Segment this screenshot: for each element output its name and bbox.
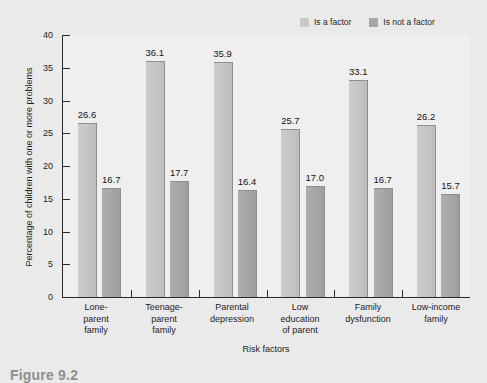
x-tick-mark <box>267 290 268 297</box>
x-tick-mark <box>199 290 200 297</box>
bar-top-edge <box>102 188 120 189</box>
bar-value-label: 36.1 <box>146 48 165 58</box>
x-category-label-line: depression <box>198 314 266 326</box>
bar-value-label: 17.7 <box>170 168 189 178</box>
y-tick-label: 30 <box>43 96 53 105</box>
bar-group: 35.916.4 <box>199 35 267 297</box>
bar-value-label: 35.9 <box>213 49 232 59</box>
y-tick-label: 15 <box>43 194 53 203</box>
bar[interactable]: 16.7 <box>374 188 393 297</box>
y-axis-title: Percentage of children with one or more … <box>22 35 36 298</box>
x-category-label-line: dysfunction <box>334 314 402 326</box>
legend-item-is-not-a-factor: Is not a factor <box>369 18 435 27</box>
x-category-label-line: parent <box>130 314 198 326</box>
x-category-label: Teenage-parentfamily <box>130 302 198 337</box>
bar-group: 33.116.7 <box>334 35 402 297</box>
bar[interactable]: 16.7 <box>102 188 121 297</box>
y-tick-label: 25 <box>43 129 53 138</box>
bar-groups: 26.616.736.117.735.916.425.717.033.116.7… <box>63 35 470 297</box>
x-category-label: Loweducationof parent <box>266 302 334 337</box>
legend-label: Is a factor <box>314 18 351 27</box>
bar-value-label: 26.6 <box>78 110 97 120</box>
bar-value-label: 15.7 <box>441 181 460 191</box>
x-category-label-line: family <box>402 314 470 326</box>
x-category-label-line: of parent <box>266 325 334 337</box>
bar[interactable]: 25.7 <box>281 129 300 297</box>
x-axis-category-labels: Lone-parentfamilyTeenage-parentfamilyPar… <box>62 302 470 337</box>
legend-swatch-icon <box>369 18 378 27</box>
bar-top-edge <box>238 190 256 191</box>
x-category-label: Lone-parentfamily <box>62 302 130 337</box>
bar-top-edge <box>214 62 232 63</box>
bar-group: 26.616.7 <box>63 35 131 297</box>
figure-caption: Figure 9.2 <box>10 367 78 383</box>
bar-group: 26.215.7 <box>402 35 470 297</box>
bar[interactable]: 17.7 <box>170 181 189 297</box>
x-category-label-line: family <box>62 325 130 337</box>
x-tick-mark <box>402 290 403 297</box>
bar-top-edge <box>441 194 459 195</box>
x-category-label: Parentaldepression <box>198 302 266 337</box>
x-category-label: Familydysfunction <box>334 302 402 337</box>
legend-label: Is not a factor <box>383 18 435 27</box>
x-tick-mark <box>131 290 132 297</box>
bar-value-label: 16.4 <box>238 177 257 187</box>
x-category-label-line: Lone- <box>62 302 130 314</box>
bar-top-edge <box>417 125 435 126</box>
bar[interactable]: 26.2 <box>417 125 436 297</box>
x-category-label-line: Family <box>334 302 402 314</box>
bar-top-edge <box>78 123 96 124</box>
bar-value-label: 33.1 <box>349 67 368 77</box>
bar-top-edge <box>306 186 324 187</box>
bar-value-label: 25.7 <box>281 116 300 126</box>
bar[interactable]: 36.1 <box>146 61 165 297</box>
y-tick-label: 10 <box>43 227 53 236</box>
x-category-label: Low-incomefamily <box>402 302 470 337</box>
bar[interactable]: 17.0 <box>306 186 325 297</box>
bar[interactable]: 15.7 <box>441 194 460 297</box>
x-axis-title: Risk factors <box>62 344 470 354</box>
x-category-label-line: parent <box>62 314 130 326</box>
bar-value-label: 17.0 <box>306 173 325 183</box>
plot-area: 0510152025303540 26.616.736.117.735.916.… <box>62 35 470 298</box>
y-tick-label: 40 <box>43 31 53 40</box>
bar[interactable]: 35.9 <box>214 62 233 297</box>
bar-value-label: 26.2 <box>417 112 436 122</box>
x-category-label-line: family <box>130 325 198 337</box>
x-category-label-line: Low-income <box>402 302 470 314</box>
x-category-label-line: Teenage- <box>130 302 198 314</box>
chart-legend: Is a factor Is not a factor <box>300 18 435 27</box>
bar-top-edge <box>170 181 188 182</box>
legend-item-is-a-factor: Is a factor <box>300 18 351 27</box>
y-tick-label: 0 <box>48 293 53 302</box>
y-axis-title-text: Percentage of children with one or more … <box>24 67 34 266</box>
y-tick-mark <box>63 297 70 298</box>
bar[interactable]: 33.1 <box>349 80 368 297</box>
y-tick-label: 5 <box>48 260 53 269</box>
bar-top-edge <box>374 188 392 189</box>
bar-value-label: 16.7 <box>102 175 121 185</box>
y-tick-label: 35 <box>43 63 53 72</box>
x-tick-mark <box>334 290 335 297</box>
legend-swatch-icon <box>300 18 309 27</box>
bar-value-label: 16.7 <box>373 175 392 185</box>
bar-top-edge <box>281 129 299 130</box>
bar[interactable]: 26.6 <box>78 123 97 297</box>
bar-group: 25.717.0 <box>266 35 334 297</box>
bar-top-edge <box>349 80 367 81</box>
x-category-label-line: education <box>266 314 334 326</box>
x-category-label-line: Low <box>266 302 334 314</box>
bar[interactable]: 16.4 <box>238 190 257 297</box>
y-tick-label: 20 <box>43 162 53 171</box>
bar-top-edge <box>146 61 164 62</box>
x-category-label-line: Parental <box>198 302 266 314</box>
bar-group: 36.117.7 <box>131 35 199 297</box>
